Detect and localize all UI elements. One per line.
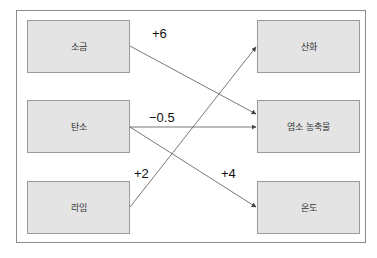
edge-lines (0, 0, 377, 258)
edge-weight-carbon-temperature: +4 (221, 167, 236, 180)
edge-salt-to-chlorine (130, 46, 256, 114)
edge-weight-carbon-chlorine: −0.5 (149, 111, 175, 124)
edge-weight-lime-oxidation: +2 (134, 167, 149, 180)
edge-weight-salt-chlorine: +6 (152, 27, 167, 40)
edge-carbon-to-temperature (130, 127, 256, 207)
